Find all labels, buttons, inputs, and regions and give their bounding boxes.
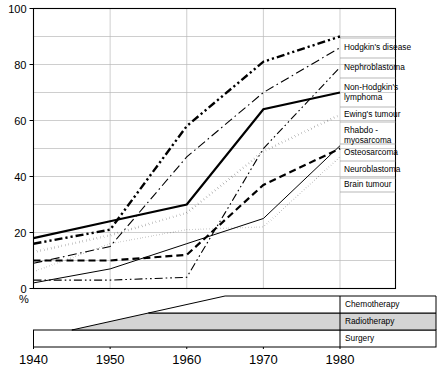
series-legend: Hodgkin's diseaseNephroblastomaNon-Hodgk… [340, 38, 411, 192]
y-axis: 020406080100 [8, 3, 33, 295]
legend-label-9: Brain tumour [344, 179, 392, 189]
survival-rate-line-chart: 020406080100 19401950196019701980 Hodgki… [0, 0, 441, 371]
legend-label-2: Non-Hodgkin's [344, 82, 398, 92]
legend-label-4: Ewing's tumour [344, 109, 401, 119]
band-label-chemotherapy: Chemotherapy [345, 299, 400, 309]
x-tick-label-1950: 1950 [96, 352, 125, 367]
percent-axis-label: % [19, 293, 29, 305]
band-label-surgery: Surgery [345, 333, 375, 343]
x-tick-label-1960: 1960 [172, 352, 201, 367]
legend-label-1: Nephroblastoma [344, 62, 405, 72]
y-tick-label-100: 100 [8, 3, 26, 15]
horizontal-gridlines [34, 9, 396, 261]
y-tick-label-60: 60 [14, 115, 26, 127]
legend-label-8: Neuroblastoma [344, 164, 401, 174]
y-tick-label-80: 80 [14, 59, 26, 71]
chart-root: 020406080100 19401950196019701980 Hodgki… [0, 0, 441, 371]
x-tick-label-1980: 1980 [326, 352, 355, 367]
band-label-radiotherapy: Radiotherapy [345, 316, 395, 326]
legend-label-3: lymphoma [344, 92, 383, 102]
legend-label-5: Rhabdo - [344, 125, 378, 135]
y-tick-label-40: 40 [14, 171, 26, 183]
x-tick-label-1970: 1970 [249, 352, 278, 367]
legend-label-6: myosarcoma [344, 135, 392, 145]
x-tick-label-1940: 1940 [19, 352, 48, 367]
y-tick-label-20: 20 [14, 227, 26, 239]
therapy-bands: ChemotherapyRadiotherapySurgery [34, 296, 437, 347]
legend-label-0: Hodgkin's disease [344, 42, 411, 52]
legend-label-7: Osteosarcoma [344, 147, 398, 157]
band-surgery [34, 330, 437, 347]
